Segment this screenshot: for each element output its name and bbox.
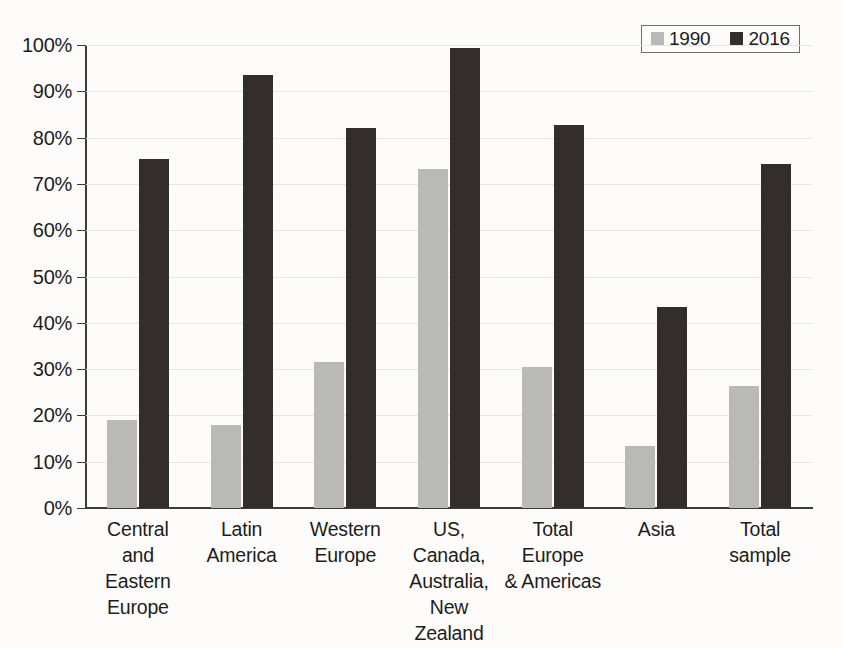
y-axis-tick: [77, 323, 86, 324]
category-label: Central and Eastern Europe: [86, 516, 190, 620]
bar-1990: [625, 446, 655, 508]
legend-swatch-2016: [730, 32, 743, 45]
y-axis-tick-label: 100%: [22, 34, 72, 57]
category-label: Asia: [605, 516, 709, 542]
y-axis-tick-label: 60%: [33, 219, 72, 242]
y-axis-tick-label: 40%: [33, 311, 72, 334]
y-axis-tick-label: 30%: [33, 358, 72, 381]
category-label: Western Europe: [293, 516, 397, 568]
category-label: US, Canada, Australia, New Zealand: [397, 516, 501, 646]
bar-chart: 1990 2016 0%10%20%30%40%50%60%70%80%90%1…: [0, 0, 842, 648]
y-axis-tick-label: 90%: [33, 80, 72, 103]
x-axis-category-labels: Central and Eastern EuropeLatin AmericaW…: [86, 516, 812, 636]
bar-2016: [761, 164, 791, 508]
plot-area: 0%10%20%30%40%50%60%70%80%90%100%: [86, 45, 812, 508]
category-label: Total Europe & Americas: [501, 516, 605, 594]
bar-2016: [554, 125, 584, 508]
y-axis-tick: [77, 91, 86, 92]
bar-2016: [139, 159, 169, 508]
bar-group: [501, 45, 605, 508]
bar-group: [605, 45, 709, 508]
bar-1990: [729, 386, 759, 508]
y-axis-tick: [77, 184, 86, 185]
bar-group: [190, 45, 294, 508]
y-axis-tick: [77, 230, 86, 231]
y-axis-tick-label: 80%: [33, 126, 72, 149]
bar-group: [397, 45, 501, 508]
y-axis-tick-label: 0%: [44, 497, 72, 520]
y-axis-tick: [77, 462, 86, 463]
bar-group: [86, 45, 190, 508]
y-axis-tick: [77, 415, 86, 416]
bar-1990: [107, 420, 137, 508]
y-axis-tick-label: 20%: [33, 404, 72, 427]
bar-1990: [522, 367, 552, 508]
bar-group: [708, 45, 812, 508]
y-axis-tick: [77, 138, 86, 139]
y-axis-tick-label: 70%: [33, 172, 72, 195]
bar-1990: [418, 169, 448, 508]
legend-swatch-1990: [651, 32, 664, 45]
category-label: Total sample: [708, 516, 812, 568]
bar-2016: [346, 128, 376, 508]
bar-1990: [314, 362, 344, 508]
y-axis-tick: [77, 508, 86, 509]
y-axis-tick-label: 50%: [33, 265, 72, 288]
y-axis-tick: [77, 45, 86, 46]
bar-2016: [243, 75, 273, 508]
bar-2016: [450, 48, 480, 508]
y-axis-tick-label: 10%: [33, 450, 72, 473]
bar-group: [293, 45, 397, 508]
category-label: Latin America: [190, 516, 294, 568]
bar-1990: [211, 425, 241, 508]
bar-2016: [657, 307, 687, 508]
y-axis-tick: [77, 277, 86, 278]
y-axis-tick: [77, 369, 86, 370]
